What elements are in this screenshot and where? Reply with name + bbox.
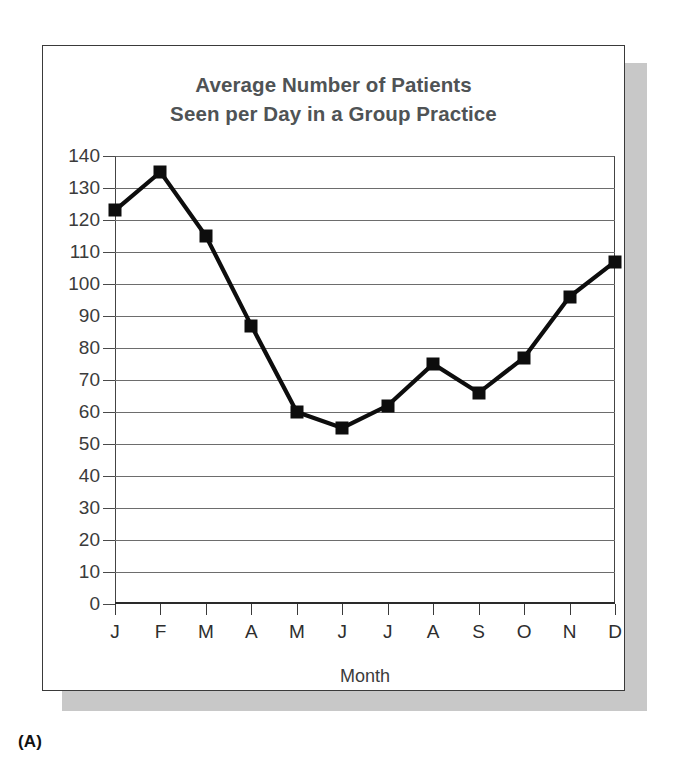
- y-axis-tick-label: 140: [68, 145, 100, 167]
- x-axis-tick: [342, 604, 343, 615]
- y-axis-tick-label: 110: [70, 241, 100, 263]
- data-point-marker: [609, 255, 622, 268]
- y-axis-tick: [103, 572, 115, 573]
- y-axis-tick: [103, 348, 115, 349]
- y-axis-tick: [103, 188, 115, 189]
- x-axis-tick: [251, 604, 252, 615]
- x-axis-tick: [206, 604, 207, 615]
- y-axis-tick: [103, 444, 115, 445]
- y-axis-tick: [103, 284, 115, 285]
- x-axis-tick-label: O: [517, 621, 532, 643]
- x-axis-tick-label: M: [289, 621, 305, 643]
- x-axis-tick: [570, 604, 571, 615]
- plot-area: 0102030405060708090100110120130140 JFMAM…: [115, 156, 615, 604]
- y-axis-tick: [103, 540, 115, 541]
- y-axis-tick-label: 30: [79, 497, 100, 519]
- data-point-marker: [290, 406, 303, 419]
- y-axis-tick-label: 80: [79, 337, 100, 359]
- data-point-marker: [427, 358, 440, 371]
- x-axis-tick: [524, 604, 525, 615]
- x-axis-tick: [615, 604, 616, 615]
- panel-caption: (A): [18, 732, 42, 752]
- x-axis-tick: [479, 604, 480, 615]
- y-axis-tick: [103, 476, 115, 477]
- y-axis-tick-label: 10: [79, 561, 100, 583]
- y-axis-tick-label: 20: [79, 529, 100, 551]
- data-point-marker: [472, 386, 485, 399]
- chart-title: Average Number of Patients Seen per Day …: [43, 70, 624, 128]
- x-axis-tick: [297, 604, 298, 615]
- x-axis-tick-label: J: [110, 621, 120, 643]
- y-axis-tick-label: 100: [68, 273, 100, 295]
- y-axis-tick-label: 130: [68, 177, 100, 199]
- chart-figure-card: Average Number of Patients Seen per Day …: [42, 45, 625, 691]
- y-axis-tick: [103, 508, 115, 509]
- y-axis-tick: [103, 220, 115, 221]
- x-axis-tick-label: A: [427, 621, 440, 643]
- y-axis-tick-label: 70: [79, 369, 100, 391]
- x-axis-tick: [160, 604, 161, 615]
- y-axis-tick-label: 90: [79, 305, 100, 327]
- y-axis-tick: [103, 380, 115, 381]
- y-axis-tick-label: 60: [79, 401, 100, 423]
- y-axis-tick-label: 50: [79, 433, 100, 455]
- x-axis-tick-label: J: [383, 621, 393, 643]
- x-axis-tick-label: J: [338, 621, 348, 643]
- y-axis-tick: [103, 316, 115, 317]
- data-point-marker: [199, 230, 212, 243]
- x-axis-tick-label: S: [472, 621, 485, 643]
- x-axis-tick: [433, 604, 434, 615]
- y-axis-tick-label: 40: [79, 465, 100, 487]
- series-line: [115, 156, 615, 604]
- data-point-marker: [245, 319, 258, 332]
- x-axis-tick: [115, 604, 116, 615]
- y-axis-tick: [103, 412, 115, 413]
- x-axis-tick-label: F: [155, 621, 167, 643]
- x-axis-tick-label: N: [563, 621, 577, 643]
- y-axis-tick: [103, 604, 115, 605]
- y-axis-tick-label: 120: [68, 209, 100, 231]
- x-axis-tick: [388, 604, 389, 615]
- data-point-marker: [154, 166, 167, 179]
- x-axis-tick-label: A: [245, 621, 258, 643]
- y-axis-tick: [103, 252, 115, 253]
- data-point-marker: [518, 351, 531, 364]
- data-point-marker: [109, 204, 122, 217]
- y-axis-tick-label: 0: [89, 593, 100, 615]
- x-axis-tick-label: D: [608, 621, 622, 643]
- data-point-marker: [381, 399, 394, 412]
- data-point-marker: [336, 422, 349, 435]
- y-axis-tick: [103, 156, 115, 157]
- x-axis-title: Month: [115, 666, 615, 687]
- data-point-marker: [563, 290, 576, 303]
- x-axis-tick-label: M: [198, 621, 214, 643]
